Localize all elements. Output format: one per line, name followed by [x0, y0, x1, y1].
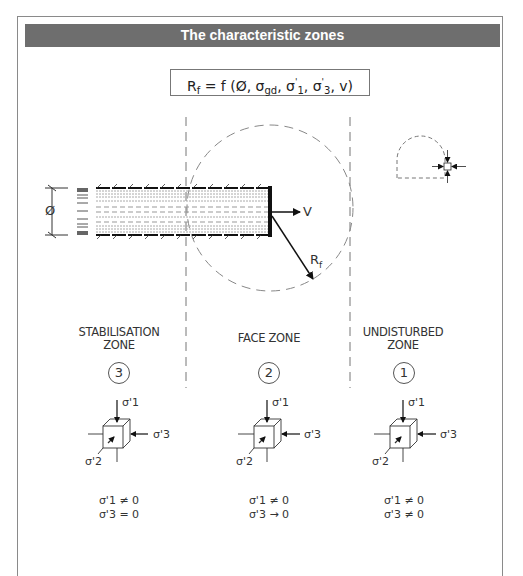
- sigma2-label: σ'2: [236, 455, 253, 468]
- sigma3-label: σ'3: [440, 428, 457, 441]
- stress-element-icon: [432, 150, 466, 183]
- condition-line: σ'3 ≠ 0: [364, 508, 444, 522]
- sigma1-label: σ'1: [408, 396, 425, 409]
- condition-zone1: σ'1 ≠ 0 σ'3 ≠ 0: [364, 494, 444, 522]
- radius-label: Rf: [310, 252, 322, 270]
- sigma3-label: σ'3: [304, 428, 321, 441]
- zone-label-line: ZONE: [59, 339, 179, 352]
- zone-number-2: 2: [258, 362, 280, 384]
- zone-label-undisturbed: UNDISTURBED ZONE: [343, 326, 463, 352]
- tunnel-body: [77, 184, 272, 239]
- stress-cube-zone3: [88, 400, 148, 462]
- radius-label-sub: f: [319, 260, 322, 270]
- condition-line: σ'1 ≠ 0: [364, 494, 444, 508]
- sigma3-label: σ'3: [153, 428, 170, 441]
- zone-label-face: FACE ZONE: [209, 332, 329, 345]
- sigma1-label: σ'1: [272, 396, 289, 409]
- sigma2-label: σ'2: [372, 455, 389, 468]
- zone-label-line: FACE ZONE: [209, 332, 329, 345]
- radius-arrow: [272, 216, 313, 279]
- condition-line: σ'3 = 0: [79, 508, 159, 522]
- condition-zone3: σ'1 ≠ 0 σ'3 = 0: [79, 494, 159, 522]
- condition-line: σ'1 ≠ 0: [229, 494, 309, 508]
- velocity-label: V: [303, 204, 312, 219]
- diameter-label: Ø: [45, 203, 55, 218]
- condition-line: σ'1 ≠ 0: [79, 494, 159, 508]
- sigma1-label: σ'1: [122, 396, 139, 409]
- stress-cube-zone2: [238, 400, 300, 462]
- zone-number-3: 3: [108, 362, 130, 384]
- tunnel-face: [268, 186, 272, 237]
- condition-zone2: σ'1 ≠ 0 σ'3 → 0: [229, 494, 309, 522]
- radius-label-main: R: [310, 252, 319, 267]
- sigma2-label: σ'2: [85, 455, 102, 468]
- zone-number-1: 1: [393, 362, 415, 384]
- condition-line: σ'3 → 0: [229, 508, 309, 522]
- zone-label-line: ZONE: [343, 339, 463, 352]
- stress-cube-zone1: [374, 400, 436, 462]
- tunnel-end-hatch: [77, 188, 88, 235]
- zone-label-stabilisation: STABILISATION ZONE: [59, 326, 179, 352]
- tunnel-section-icon: [397, 136, 445, 178]
